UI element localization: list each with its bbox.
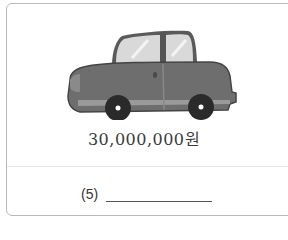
card-divider bbox=[7, 166, 288, 167]
answer-row: (5) bbox=[81, 186, 212, 202]
answer-blank[interactable] bbox=[106, 187, 212, 202]
question-number: (5) bbox=[81, 186, 98, 202]
price-label: 30,000,000원 bbox=[0, 126, 288, 150]
car-icon bbox=[60, 20, 240, 120]
